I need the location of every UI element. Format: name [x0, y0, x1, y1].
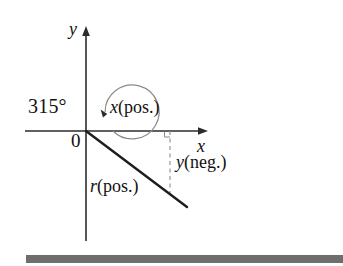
- y-component-drop-line-group: [165, 131, 171, 197]
- bottom-rule-divider: [26, 255, 343, 263]
- x-component-sign: (pos.): [118, 97, 160, 117]
- angle-diagram-figure: 315° 0 y x x(pos.) y(neg.) r(pos.): [0, 0, 343, 266]
- angle-measure-label: 315°: [28, 96, 67, 116]
- y-component-sign: (neg.): [184, 152, 226, 172]
- x-component-symbol: x: [110, 97, 118, 117]
- r-component-sign: (pos.): [97, 176, 139, 196]
- y-component-symbol: y: [176, 152, 184, 172]
- y-axis-arrowhead-icon: [82, 26, 90, 36]
- right-angle-marker-icon: [165, 132, 171, 137]
- r-component-symbol: r: [90, 176, 97, 196]
- y-axis-label: y: [69, 20, 77, 38]
- r-component-label: r(pos.): [90, 177, 139, 195]
- x-axis-arrowhead-icon: [198, 127, 208, 135]
- x-component-label: x(pos.): [110, 98, 160, 116]
- origin-label: 0: [71, 131, 81, 150]
- angle-diagram-canvas: [0, 0, 343, 266]
- angle-arc-arrowhead-icon: [101, 110, 108, 118]
- y-component-label: y(neg.): [176, 153, 226, 171]
